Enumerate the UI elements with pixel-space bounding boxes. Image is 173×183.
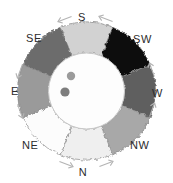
dot-lower: [60, 87, 69, 96]
direction-label-se: SE: [26, 33, 42, 44]
compass-rose-diagram: [0, 0, 173, 183]
arrow-s-left-icon: [57, 14, 73, 25]
direction-label-nw: NW: [130, 140, 150, 151]
inner-disc: [49, 53, 125, 129]
direction-label-ne: NE: [22, 140, 38, 151]
direction-label-w: W: [152, 88, 163, 99]
arrow-n-left-icon: [58, 159, 74, 170]
direction-label-s: S: [78, 12, 86, 23]
inner-disc-group: [49, 53, 125, 129]
compass-rose-figure: SSESWEWNENWN: [0, 0, 173, 183]
direction-label-n: N: [79, 167, 88, 178]
direction-label-sw: SW: [133, 34, 152, 45]
arrow-n-right-icon: [98, 159, 114, 170]
direction-label-e: E: [11, 86, 19, 97]
arrow-s-right-icon: [98, 14, 114, 25]
dot-upper: [67, 72, 75, 80]
